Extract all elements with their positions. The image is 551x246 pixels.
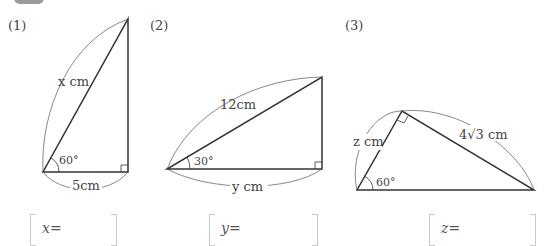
answer-prompt-1: x=: [42, 220, 62, 236]
angle-label-2: 30°: [194, 155, 214, 168]
angle-label-1: 60°: [59, 154, 79, 167]
base-label-2: y cm: [231, 179, 263, 194]
answer-box-3[interactable]: z=: [429, 214, 536, 244]
triangle-2: 12cm y cm 30°: [167, 77, 322, 194]
base-label-1: 5cm: [72, 178, 100, 193]
long-leg-label-3: 4√3 cm: [459, 127, 508, 142]
figures: x cm 5cm 60° 12cm y cm 30° z cm 4√3 cm 6…: [0, 0, 551, 246]
hypotenuse-label-2: 12cm: [220, 97, 256, 112]
angle-label-3: 60°: [376, 176, 396, 189]
answer-box-2[interactable]: y=: [209, 214, 318, 244]
triangle-3: z cm 4√3 cm 60°: [352, 110, 534, 190]
answer-prompt-3: z=: [441, 220, 460, 236]
answer-box-1[interactable]: x=: [30, 214, 117, 244]
hypotenuse-label-1: x cm: [58, 74, 89, 89]
short-leg-label-3: z cm: [353, 134, 384, 149]
triangle-1: x cm 5cm 60°: [43, 19, 128, 193]
answer-prompt-2: y=: [221, 220, 241, 236]
